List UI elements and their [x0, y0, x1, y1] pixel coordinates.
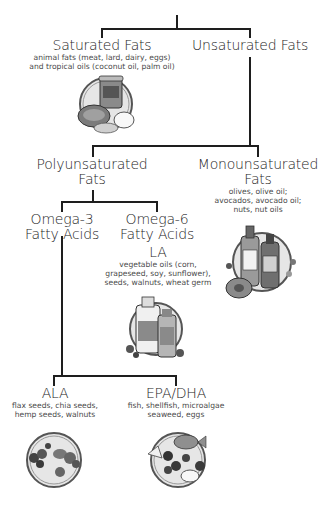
vegetable-oil-corn-oil-icon — [120, 295, 190, 365]
fish-seaweed-egg-plate-icon — [142, 428, 212, 490]
omega3-stem — [61, 236, 63, 377]
node-desc-line: olives, olive oil; — [185, 187, 331, 196]
node-monounsaturated-fats: Monounsaturated Fats olives, olive oil; … — [185, 157, 331, 214]
olive-oil-avocado-icon — [223, 222, 301, 306]
node-desc-line: seeds, walnuts, wheat germ — [88, 278, 228, 287]
node-title: EPA/DHA — [118, 386, 234, 401]
node-la: LA vegetable oils (corn, grapeseed, soy,… — [88, 245, 228, 287]
node-title: Fats — [22, 172, 162, 187]
node-title: Omega-6 — [110, 212, 204, 227]
node-title: ALA — [0, 386, 110, 401]
node-omega-6: Omega-6 Fatty Acids — [110, 212, 204, 242]
node-desc-line: flax seeds, chia seeds, — [0, 401, 110, 410]
node-title: LA — [88, 245, 228, 260]
level4-bar — [53, 375, 177, 377]
level1-bar — [101, 28, 251, 30]
coconut-oil-steak-egg-icon — [66, 72, 146, 136]
node-desc-line: nuts, nut oils — [185, 205, 331, 214]
seeds-walnuts-plate-icon — [20, 430, 86, 490]
node-title: Monounsaturated — [185, 157, 331, 172]
node-desc-line: animal fats (meat, lard, dairy, eggs) — [20, 53, 184, 62]
node-desc-line: hemp seeds, walnuts — [0, 410, 110, 419]
node-title: Fatty Acids — [110, 227, 204, 242]
node-omega-3: Omega-3 Fatty Acids — [16, 212, 108, 242]
root-stem — [176, 15, 178, 29]
node-desc-line: vegetable oils (corn, — [88, 260, 228, 269]
node-title: Polyunsaturated — [22, 157, 162, 172]
node-desc-line: fish, shellfish, microalgae — [118, 401, 234, 410]
node-desc-line: and tropical oils (coconut oil, palm oil… — [20, 62, 184, 71]
node-unsaturated-fats: Unsaturated Fats — [185, 38, 315, 53]
node-title: Fatty Acids — [16, 227, 108, 242]
node-desc-line: seaweed, eggs — [118, 410, 234, 419]
node-title: Unsaturated Fats — [185, 38, 315, 53]
unsaturated-stem — [249, 57, 251, 147]
node-title: Omega-3 — [16, 212, 108, 227]
level2-bar — [92, 145, 259, 147]
node-title: Saturated Fats — [20, 38, 184, 53]
node-polyunsaturated-fats: Polyunsaturated Fats — [22, 157, 162, 187]
node-desc-line: avocados, avocado oil; — [185, 196, 331, 205]
node-ala: ALA flax seeds, chia seeds, hemp seeds, … — [0, 386, 110, 419]
node-saturated-fats: Saturated Fats animal fats (meat, lard, … — [20, 38, 184, 71]
level3-bar — [61, 201, 158, 203]
node-desc-line: grapeseed, soy, sunflower), — [88, 269, 228, 278]
node-epa-dha: EPA/DHA fish, shellfish, microalgae seaw… — [118, 386, 234, 419]
node-title: Fats — [185, 172, 331, 187]
